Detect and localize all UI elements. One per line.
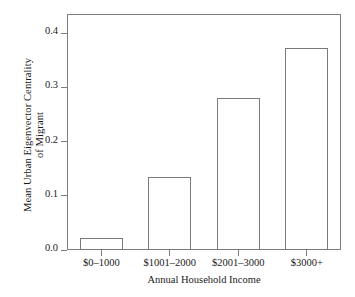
- x-tick-mark: [169, 250, 170, 256]
- y-tick-mark: [61, 195, 67, 196]
- x-tick-mark: [306, 250, 307, 256]
- bar: [217, 98, 260, 250]
- y-tick-label: 0.3: [28, 79, 58, 90]
- bar: [285, 48, 328, 250]
- bar-chart-figure: Mean Urban Eigenvector Centrality of Mig…: [0, 0, 355, 297]
- y-tick-mark: [61, 141, 67, 142]
- y-tick-label: 0.2: [28, 134, 58, 145]
- y-tick-label: 0.1: [28, 188, 58, 199]
- y-tick-mark: [61, 87, 67, 88]
- x-tick-mark: [101, 250, 102, 256]
- y-tick-label: 0.4: [28, 25, 58, 36]
- bar: [148, 177, 191, 250]
- y-tick-mark: [61, 33, 67, 34]
- x-axis-title: Annual Household Income: [67, 274, 341, 285]
- bar: [80, 238, 123, 250]
- x-tick-label: $3000+: [252, 257, 355, 268]
- x-tick-mark: [238, 250, 239, 256]
- y-tick-label: 0.0: [28, 242, 58, 253]
- y-tick-mark: [61, 250, 67, 251]
